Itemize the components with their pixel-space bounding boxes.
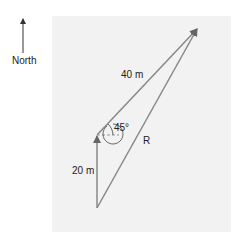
north-label: North [12, 55, 36, 66]
vector-diagram [0, 0, 238, 238]
vector-20m-label: 20 m [72, 165, 94, 176]
vector-40m-label: 40 m [121, 69, 143, 80]
angle-label: 45° [114, 122, 129, 133]
resultant-label: R [143, 135, 150, 146]
